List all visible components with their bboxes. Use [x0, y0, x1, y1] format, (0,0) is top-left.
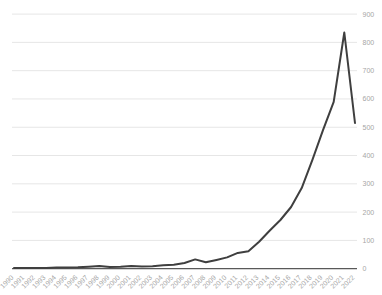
y-tick-label: 700 [363, 67, 375, 74]
y-tick-label: 0 [363, 265, 367, 272]
y-tick-label: 200 [363, 209, 375, 216]
data-line-series [14, 33, 355, 268]
y-tick-label: 300 [363, 180, 375, 187]
line-chart: 0100200300400500600700800900199019911992… [0, 0, 382, 295]
y-tick-label: 100 [363, 237, 375, 244]
y-tick-label: 500 [363, 124, 375, 131]
y-tick-label: 900 [363, 11, 375, 18]
line-chart-svg: 0100200300400500600700800900199019911992… [0, 0, 382, 295]
y-tick-label: 600 [363, 95, 375, 102]
y-tick-label: 400 [363, 152, 375, 159]
y-tick-label: 800 [363, 39, 375, 46]
